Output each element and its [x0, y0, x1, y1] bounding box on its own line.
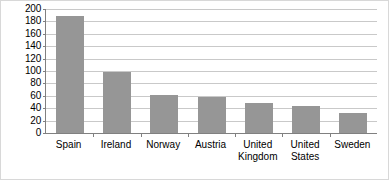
- x-axis-category-label-line: United: [234, 139, 281, 151]
- x-axis-category-label-line: Ireland: [92, 139, 139, 151]
- x-axis-category-label: UnitedKingdom: [234, 139, 281, 163]
- x-axis-tick-marks: [46, 133, 377, 137]
- bar-series: [46, 9, 377, 133]
- y-axis-tick-label: 80: [5, 78, 41, 88]
- bar: [150, 95, 178, 133]
- y-axis-tick-label: 200: [5, 4, 41, 14]
- y-axis-tick-label: 60: [5, 91, 41, 101]
- y-axis-tick-labels: 020406080100120140160180200: [5, 9, 41, 133]
- y-axis-tick-label: 120: [5, 54, 41, 64]
- y-axis-tick-label: 180: [5, 16, 41, 26]
- bar: [339, 113, 367, 133]
- x-axis-category-label-line: Sweden: [329, 139, 376, 151]
- y-axis-tick-label: 20: [5, 116, 41, 126]
- x-axis-category-label-line: Austria: [187, 139, 234, 151]
- x-axis-tick-mark: [188, 133, 189, 137]
- x-axis-tick-mark: [330, 133, 331, 137]
- bar: [292, 106, 320, 133]
- x-axis-tick-mark: [235, 133, 236, 137]
- x-axis-category-label: Ireland: [92, 139, 139, 151]
- x-axis-category-label: UnitedStates: [281, 139, 328, 163]
- bar: [245, 103, 273, 133]
- y-axis-tick-label: 40: [5, 103, 41, 113]
- y-axis-tick-label: 0: [5, 128, 41, 138]
- y-axis-tick-label: 140: [5, 41, 41, 51]
- y-axis-tick-label: 160: [5, 29, 41, 39]
- x-axis-category-label: Norway: [140, 139, 187, 151]
- x-axis-category-label: Austria: [187, 139, 234, 151]
- x-axis-category-label-line: Kingdom: [234, 151, 281, 163]
- bar: [103, 72, 131, 133]
- x-axis-tick-mark: [282, 133, 283, 137]
- chart-plot-wrapper: 020406080100120140160180200 SpainIreland…: [1, 1, 390, 181]
- bar: [198, 97, 226, 133]
- bar-chart: 020406080100120140160180200 SpainIreland…: [0, 0, 389, 180]
- x-axis-tick-mark: [141, 133, 142, 137]
- y-axis-tick-label: 100: [5, 66, 41, 76]
- x-axis-category-label: Spain: [45, 139, 92, 151]
- x-axis-category-labels: SpainIrelandNorwayAustriaUnitedKingdomUn…: [45, 139, 376, 173]
- plot-area: [45, 9, 377, 134]
- bar: [56, 16, 84, 133]
- x-axis-category-label-line: United: [281, 139, 328, 151]
- x-axis-category-label: Sweden: [329, 139, 376, 151]
- x-axis-category-label-line: Norway: [140, 139, 187, 151]
- x-axis-category-label-line: Spain: [45, 139, 92, 151]
- x-axis-tick-mark: [93, 133, 94, 137]
- x-axis-category-label-line: States: [281, 151, 328, 163]
